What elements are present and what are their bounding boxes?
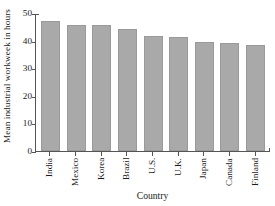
bar	[246, 45, 265, 151]
y-tick-label: 30	[14, 65, 32, 74]
bar	[144, 36, 163, 151]
bar	[67, 25, 86, 151]
x-category-label: Korea	[97, 158, 106, 180]
x-label-slot: India	[37, 156, 63, 190]
bar	[92, 25, 111, 151]
bar	[169, 37, 188, 151]
y-tick-label: 0	[14, 147, 32, 156]
bar-slot	[115, 14, 141, 151]
x-category-label: Canada	[225, 158, 234, 186]
x-label-slot: Japan	[191, 156, 217, 190]
x-label-slot: U.K.	[165, 156, 191, 190]
bar-slot	[38, 14, 64, 151]
x-label-slot: Mexico	[63, 156, 89, 190]
bar-series	[36, 14, 270, 151]
y-tick-label: 50	[14, 9, 32, 18]
x-category-label: Japan	[199, 158, 208, 179]
bar-chart: Mean industrial workweek in hours 010203…	[0, 0, 275, 206]
bar-slot	[64, 14, 90, 151]
bar-slot	[140, 14, 166, 151]
x-category-label: Mexico	[71, 158, 80, 186]
x-axis-category-labels: IndiaMexicoKoreaBrazilU.S.U.K.JapanCanad…	[35, 156, 270, 190]
bar-slot	[243, 14, 269, 151]
x-category-label: U.K.	[174, 158, 183, 176]
x-category-label: India	[45, 158, 54, 177]
bar-slot	[89, 14, 115, 151]
x-label-slot: Finland	[242, 156, 268, 190]
bar-slot	[217, 14, 243, 151]
bar	[220, 43, 239, 151]
x-category-label: U.S.	[148, 158, 157, 174]
x-label-slot: U.S.	[140, 156, 166, 190]
y-axis-title-text: Mean industrial workweek in hours	[2, 9, 12, 143]
bar-slot	[191, 14, 217, 151]
y-tick-label: 10	[14, 120, 32, 129]
x-category-label: Finland	[251, 158, 260, 186]
bar	[118, 29, 137, 151]
x-category-label: Brazil	[122, 158, 131, 180]
x-label-slot: Canada	[217, 156, 243, 190]
x-axis-title: Country	[35, 190, 270, 201]
bar	[195, 42, 214, 151]
y-tick-label: 20	[14, 92, 32, 101]
y-axis-tick-labels: 01020304050	[12, 0, 32, 206]
x-label-slot: Korea	[88, 156, 114, 190]
x-label-slot: Brazil	[114, 156, 140, 190]
y-tick-label: 40	[14, 37, 32, 46]
plot-area	[35, 14, 270, 152]
bar-slot	[166, 14, 192, 151]
bar	[41, 21, 60, 151]
